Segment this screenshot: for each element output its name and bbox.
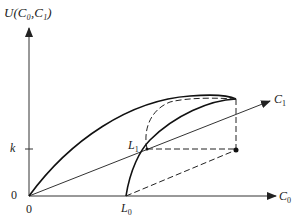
L0-label: L0 — [121, 202, 132, 217]
dashed-curve-from-L1 — [146, 98, 236, 149]
x-axis-label: C0 — [279, 190, 291, 205]
y-origin-label: 0 — [11, 189, 17, 201]
k-label: k — [10, 142, 15, 154]
c1-axis-label: C1 — [274, 93, 286, 108]
dashed-diagonal-from-L0 — [126, 150, 236, 196]
L1-point — [146, 148, 149, 151]
utility-curve-from-L0 — [126, 99, 236, 196]
x-origin-label: 0 — [26, 203, 32, 215]
y-axis-label: U(C₀,C₁) — [4, 6, 52, 19]
diagram-canvas — [0, 0, 295, 217]
L1-label: L1 — [128, 139, 139, 154]
endpoint-dot — [234, 148, 239, 153]
